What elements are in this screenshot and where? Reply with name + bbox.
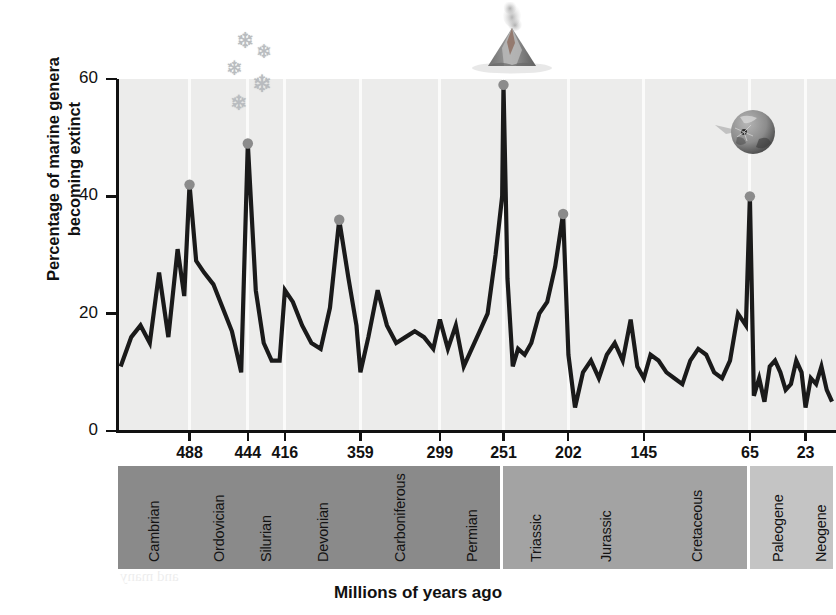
period-ordovician[interactable]: Ordovician <box>190 466 248 569</box>
y-tick-mark <box>106 78 117 81</box>
x-tick-mark <box>439 431 441 441</box>
peak-marker-dot <box>558 209 568 219</box>
y-tick-mark <box>106 195 117 198</box>
period-neogene[interactable]: Neogene <box>806 466 836 569</box>
peak-marker-dot <box>184 179 194 189</box>
x-tick-mark <box>749 431 751 441</box>
period-devonian[interactable]: Devonian <box>285 466 361 569</box>
peak-marker-dot <box>243 138 253 148</box>
x-tick-mark <box>188 431 190 441</box>
x-tick-label: 145 <box>631 444 658 462</box>
x-tick-label: 444 <box>234 444 261 462</box>
period-carboniferous[interactable]: Carboniferous <box>360 466 439 569</box>
asteroid-impact-icon <box>713 103 781 163</box>
period-permian[interactable]: Permian <box>440 466 504 569</box>
x-tick-mark <box>247 431 249 441</box>
period-cretaceous[interactable]: Cretaceous <box>644 466 750 569</box>
period-triassic[interactable]: Triassic <box>503 466 568 569</box>
y-axis-title: Percentage of marine genera becoming ext… <box>43 19 85 319</box>
y-tick-mark <box>106 312 117 315</box>
period-label: Cretaceous <box>689 490 705 562</box>
x-tick-label: 23 <box>797 444 815 462</box>
volcano-icon <box>466 2 558 74</box>
x-tick-mark <box>567 431 569 441</box>
x-tick-label: 359 <box>347 444 374 462</box>
x-axis-title: Millions of years ago <box>0 583 836 603</box>
period-label: Cambrian <box>146 501 162 562</box>
x-tick-label: 299 <box>427 444 454 462</box>
x-tick-mark <box>284 431 286 441</box>
period-label: Carboniferous <box>392 474 408 562</box>
x-tick-label: 202 <box>555 444 582 462</box>
x-tick-label: 65 <box>741 444 759 462</box>
x-tick-mark <box>804 431 806 441</box>
peak-marker-dot <box>334 215 344 225</box>
y-tick-label: 40 <box>52 185 98 205</box>
period-label: Triassic <box>528 514 544 562</box>
period-label: Devonian <box>315 502 331 562</box>
snowflakes-icon: ❄ ❄ ❄ ❄ ❄ <box>222 30 292 122</box>
x-tick-label: 251 <box>490 444 517 462</box>
peak-marker-dot <box>745 191 755 201</box>
x-axis-line <box>116 430 836 433</box>
period-label: Silurian <box>258 515 274 562</box>
x-tick-label: 488 <box>176 444 203 462</box>
y-tick-label: 0 <box>52 420 98 440</box>
period-label: Ordovician <box>211 495 227 562</box>
x-tick-mark <box>359 431 361 441</box>
y-tick-label: 60 <box>52 68 98 88</box>
period-cambrian[interactable]: Cambrian <box>118 466 190 569</box>
period-paleogene[interactable]: Paleogene <box>750 466 806 569</box>
x-tick-mark <box>643 431 645 441</box>
x-tick-mark <box>502 431 504 441</box>
period-label: Permian <box>464 509 480 562</box>
x-tick-label: 416 <box>272 444 299 462</box>
period-label: Neogene <box>813 505 829 562</box>
y-tick-label: 20 <box>52 303 98 323</box>
y-tick-mark <box>106 430 117 433</box>
period-jurassic[interactable]: Jurassic <box>568 466 644 569</box>
y-axis-line <box>116 79 119 432</box>
period-silurian[interactable]: Silurian <box>248 466 285 569</box>
peak-marker-dot <box>498 80 508 90</box>
period-label: Jurassic <box>598 510 614 562</box>
period-label: Paleogene <box>770 494 786 562</box>
